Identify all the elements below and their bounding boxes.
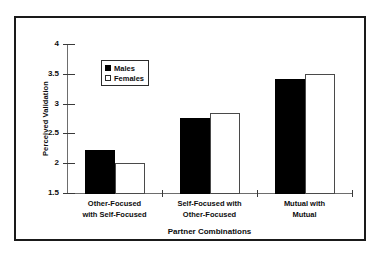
y-axis-tick-label: 2.5 bbox=[19, 129, 59, 137]
x-axis-category-label-line: Mutual with bbox=[247, 199, 362, 210]
y-axis-tick-label: 3.5 bbox=[19, 70, 59, 78]
bar-females bbox=[305, 74, 335, 194]
y-axis-tick-label: 2 bbox=[19, 159, 59, 167]
y-axis-tick-label: 4 bbox=[19, 40, 59, 48]
y-axis-tick-label: 3 bbox=[19, 100, 59, 108]
bar-males bbox=[275, 79, 305, 194]
legend-swatch-males-icon bbox=[105, 65, 111, 71]
y-axis-tick-label: 1.5 bbox=[19, 189, 59, 197]
bar-males bbox=[85, 150, 115, 194]
x-axis-category-label-line: Mutual bbox=[247, 210, 362, 221]
y-axis-tick bbox=[63, 104, 75, 105]
y-axis-tick bbox=[63, 44, 75, 45]
bar-females bbox=[115, 163, 145, 194]
y-axis-tick bbox=[63, 133, 75, 134]
legend-swatch-females-icon bbox=[105, 75, 111, 81]
legend-label-males: Males bbox=[114, 64, 135, 73]
x-axis-tick bbox=[257, 190, 258, 197]
bar-females bbox=[210, 113, 240, 194]
y-axis-tick bbox=[63, 74, 75, 75]
legend: Males Females bbox=[101, 60, 149, 86]
x-axis-title: Partner Combinations bbox=[67, 227, 352, 236]
y-axis-tick bbox=[63, 193, 75, 194]
figure-frame: 1.522.533.54 Perceived Validation Partne… bbox=[14, 16, 366, 241]
x-axis-category-label: Mutual withMutual bbox=[247, 199, 362, 220]
y-axis-line bbox=[67, 44, 68, 194]
y-axis-tick bbox=[63, 163, 75, 164]
x-axis-tick bbox=[352, 190, 353, 197]
legend-item-females: Females bbox=[105, 73, 144, 83]
y-axis-title: Perceived Validation bbox=[41, 63, 50, 173]
x-axis-tick bbox=[162, 190, 163, 197]
bar-males bbox=[180, 118, 210, 194]
legend-item-males: Males bbox=[105, 63, 144, 73]
legend-label-females: Females bbox=[114, 74, 144, 83]
